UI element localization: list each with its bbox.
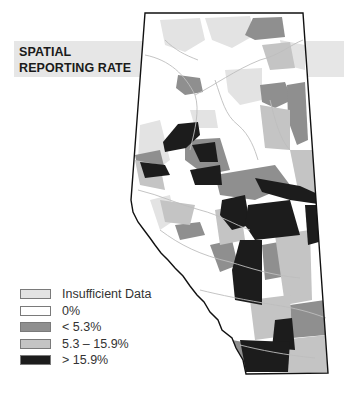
title-line-2: REPORTING RATE [19,60,131,76]
legend-item-insufficient: Insufficient Data [20,286,151,303]
legend-swatch [20,289,51,299]
reporting-regions [120,0,347,394]
legend-swatch [20,339,51,349]
legend-item-mid: 5.3 – 15.9% [20,336,151,353]
legend-item-high: > 15.9% [20,352,151,369]
legend-swatch [20,306,51,316]
legend-item-zero: 0% [20,303,151,320]
legend-swatch [20,322,51,332]
title-line-1: SPATIAL [19,44,131,60]
legend-label: 0% [62,304,80,318]
map-title: SPATIAL REPORTING RATE [19,44,131,76]
legend: Insufficient Data 0% < 5.3% 5.3 – 15.9% … [20,286,151,369]
legend-swatch [20,355,51,365]
legend-item-low: < 5.3% [20,319,151,336]
legend-label: < 5.3% [62,320,101,334]
legend-label: 5.3 – 15.9% [62,337,129,351]
legend-label: > 15.9% [62,353,108,367]
legend-label: Insufficient Data [62,287,151,301]
